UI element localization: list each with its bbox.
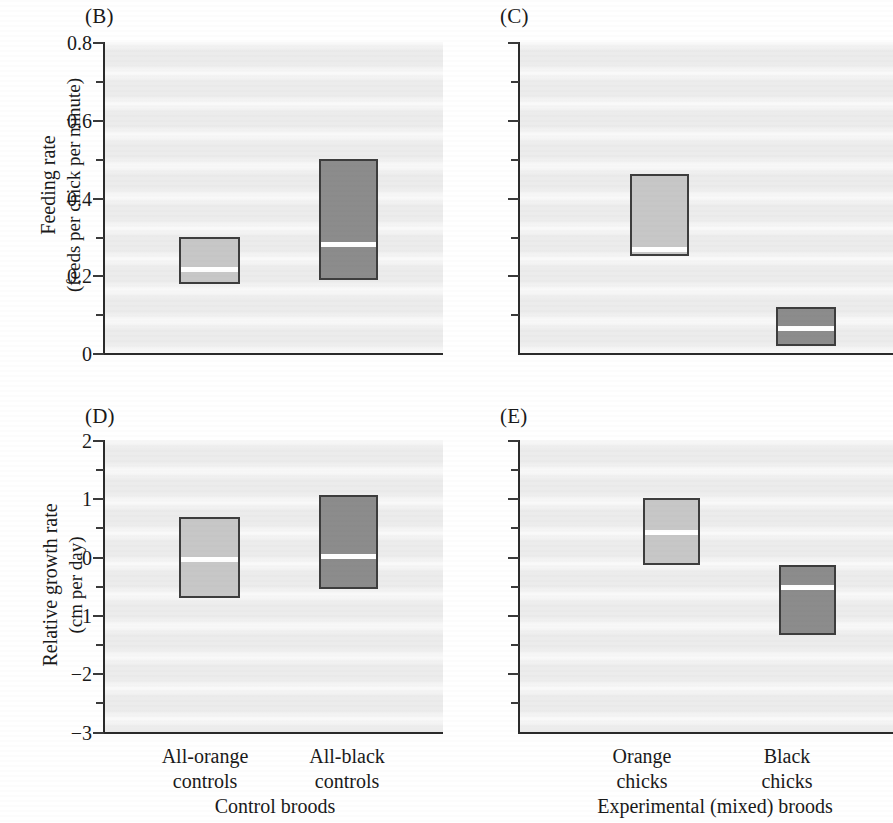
y-tick-d-3 (93, 615, 104, 617)
median-line-d-all-orange (181, 557, 238, 562)
median-line-c-black-chicks (778, 326, 834, 331)
x-tick-label-d-all-orange-line2: controls (138, 769, 272, 794)
y-tick-d-minor-4 (96, 702, 104, 704)
box-e-orange-chicks (643, 498, 700, 565)
plot-area-e (520, 440, 893, 732)
y-tick-d-minor-2 (96, 586, 104, 588)
y-tick-b-2 (93, 198, 104, 200)
x-tick-label-e-black-chicks-line1: Black (722, 744, 852, 769)
y-tick-e-0 (508, 440, 519, 442)
y-tick-b-3 (93, 275, 104, 277)
y-tick-label-d-0: 2 (30, 431, 92, 451)
y-tick-b-4 (93, 353, 104, 355)
y-tick-d-0 (93, 440, 104, 442)
x-tick-label-d-all-black: All-black controls (280, 744, 414, 794)
median-line-e-black-chicks (781, 585, 834, 590)
y-tick-label-d-3: −1 (30, 606, 92, 626)
plot-area-b (105, 42, 443, 353)
y-tick-label-b-4: 0 (30, 344, 92, 364)
median-line-e-orange-chicks (645, 530, 698, 535)
box-e-black-chicks (779, 565, 836, 635)
y-tick-c-1 (508, 120, 519, 122)
y-tick-e-minor-0 (511, 469, 519, 471)
box-c-black-chicks (776, 307, 836, 346)
box-d-all-orange (179, 517, 240, 598)
y-tick-b-minor-1 (96, 159, 104, 161)
y-tick-e-4 (508, 673, 519, 675)
y-tick-label-d-4: −2 (30, 664, 92, 684)
x-tick-label-d-all-black-line1: All-black (280, 744, 414, 769)
y-tick-c-minor-2 (511, 237, 519, 239)
y-tick-b-minor-3 (96, 314, 104, 316)
x-tick-label-e-orange-chicks: Orange chicks (577, 744, 707, 794)
y-tick-label-d-2: 0 (30, 548, 92, 568)
x-tick-label-d-all-orange: All-orange controls (138, 744, 272, 794)
x-axis-line-d (103, 732, 443, 734)
y-tick-e-minor-2 (511, 586, 519, 588)
y-tick-d-minor-3 (96, 644, 104, 646)
y-tick-label-b-0: 0.8 (30, 33, 92, 53)
y-tick-b-1 (93, 120, 104, 122)
median-line-c-orange-chicks (632, 247, 687, 252)
y-tick-b-minor-0 (96, 81, 104, 83)
y-tick-c-minor-1 (511, 159, 519, 161)
y-tick-c-minor-3 (511, 314, 519, 316)
x-tick-label-d-all-orange-line1: All-orange (138, 744, 272, 769)
x-axis-line-c (518, 353, 893, 355)
y-tick-e-minor-3 (511, 644, 519, 646)
y-tick-e-3 (508, 615, 519, 617)
panel-label-b: (B) (85, 4, 114, 29)
y-tick-c-2 (508, 198, 519, 200)
y-tick-d-1 (93, 498, 104, 500)
y-tick-e-1 (508, 498, 519, 500)
y-tick-c-minor-0 (511, 81, 519, 83)
panel-label-e: (E) (500, 404, 527, 429)
y-tick-label-d-1: 1 (30, 489, 92, 509)
y-tick-label-b-2: 0.4 (30, 189, 92, 209)
y-tick-label-b-1: 0.6 (30, 111, 92, 131)
y-tick-c-3 (508, 275, 519, 277)
box-c-orange-chicks (630, 174, 689, 256)
y-tick-label-d-5: −3 (30, 723, 92, 743)
median-line-b-all-orange (181, 267, 238, 272)
x-tick-label-e-black-chicks-line2: chicks (722, 769, 852, 794)
y-tick-b-minor-2 (96, 237, 104, 239)
x-tick-label-e-orange-chicks-line1: Orange (577, 744, 707, 769)
median-line-d-all-black (321, 554, 376, 559)
y-tick-e-minor-4 (511, 702, 519, 704)
box-d-all-black (319, 495, 378, 589)
x-group-label-control-broods: Control broods (130, 795, 420, 818)
panel-label-d: (D) (85, 404, 115, 429)
y-tick-d-4 (93, 673, 104, 675)
y-tick-e-2 (508, 557, 519, 559)
x-group-label-experimental-broods: Experimental (mixed) broods (545, 795, 885, 818)
panel-label-c: (C) (500, 4, 529, 29)
y-tick-e-minor-1 (511, 527, 519, 529)
box-b-all-orange (179, 237, 240, 284)
y-tick-d-minor-0 (96, 469, 104, 471)
y-tick-d-5 (93, 732, 104, 734)
plot-area-d (105, 440, 443, 732)
x-tick-label-e-black-chicks: Black chicks (722, 744, 852, 794)
median-line-b-all-black (321, 242, 376, 247)
y-tick-b-0 (93, 42, 104, 44)
y-tick-c-0 (508, 42, 519, 44)
y-tick-label-b-3: 0.2 (30, 266, 92, 286)
y-tick-d-minor-1 (96, 527, 104, 529)
x-axis-line-e (518, 732, 893, 734)
box-b-all-black (319, 159, 378, 280)
x-axis-line-b (103, 353, 443, 355)
y-tick-d-2 (93, 557, 104, 559)
x-tick-label-d-all-black-line2: controls (280, 769, 414, 794)
plot-area-c (520, 42, 893, 353)
x-tick-label-e-orange-chicks-line2: chicks (577, 769, 707, 794)
